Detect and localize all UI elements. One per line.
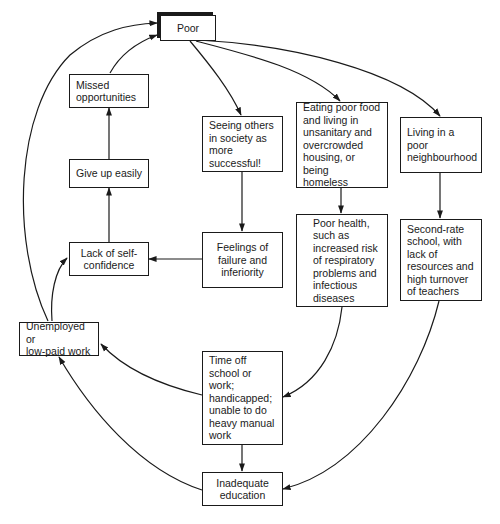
node-seeing-others: Seeing others in society as more success… — [202, 116, 283, 172]
arrow-missed-to-poor — [110, 35, 157, 73]
node-unemployed-label: Unemployed or low-paid work — [26, 320, 92, 358]
arrow-health-to-time-off — [283, 307, 342, 397]
node-give-up-easily-label: Give up easily — [76, 167, 142, 180]
node-inadequate-education-label: Inadequate education — [216, 477, 269, 502]
node-seeing-others-label: Seeing others in society as more success… — [209, 119, 274, 169]
node-second-rate-school-label: Second-rate school, with lack of resourc… — [407, 223, 474, 298]
node-poor-health: Poor health, such as increased risk of r… — [296, 214, 388, 307]
node-eating-poor-food: Eating poor food and living in unsanitar… — [296, 102, 388, 188]
node-lack-of-self-confidence: Lack of self- confidence — [69, 242, 149, 276]
node-feelings-of-failure: Feelings of failure and inferiority — [202, 232, 283, 288]
node-poor: Poor — [160, 15, 216, 41]
node-missed-opportunities-label: Missed opportunities — [76, 79, 136, 104]
node-living-poor-neighbourhood: Living in a poor neighbourhood — [400, 117, 482, 173]
node-second-rate-school: Second-rate school, with lack of resourc… — [400, 219, 482, 301]
arrow-time-off-to-unemployed — [101, 344, 202, 395]
arrow-poor-to-eating — [196, 41, 340, 101]
node-time-off-school: Time off school or work; handicapped; un… — [202, 351, 283, 445]
node-poor-label: Poor — [177, 22, 199, 35]
poverty-cycle-diagram: Poor Missed opportunities Give up easily… — [0, 0, 500, 524]
node-eating-poor-food-label: Eating poor food and living in unsanitar… — [303, 101, 381, 189]
node-living-poor-neighbourhood-label: Living in a poor neighbourhood — [407, 126, 477, 164]
node-lack-of-self-confidence-label: Lack of self- confidence — [81, 247, 138, 272]
node-time-off-school-label: Time off school or work; handicapped; un… — [209, 354, 274, 442]
node-unemployed: Unemployed or low-paid work — [19, 322, 99, 356]
arrow-poor-to-seeing — [190, 41, 241, 115]
node-poor-health-label: Poor health, such as increased risk of r… — [303, 217, 378, 305]
arrow-inadequate-to-unemployed — [59, 357, 202, 490]
node-inadequate-education: Inadequate education — [202, 472, 283, 506]
node-feelings-of-failure-label: Feelings of failure and inferiority — [217, 241, 268, 279]
node-give-up-easily: Give up easily — [69, 159, 149, 188]
arrow-second-rate-to-inadequate — [283, 301, 439, 489]
arrow-unemployed-to-lack-confidence — [52, 258, 67, 321]
node-missed-opportunities: Missed opportunities — [69, 74, 149, 108]
